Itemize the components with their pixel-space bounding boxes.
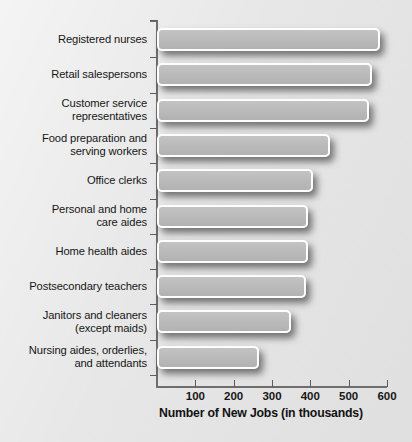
bar-row: Retail salespersons (0, 57, 412, 92)
bar-row: Registered nurses (0, 22, 412, 57)
category-label: Postsecondary teachers (4, 269, 147, 304)
bar-row: Home health aides (0, 234, 412, 269)
bar-row: Office clerks (0, 163, 412, 198)
x-axis-tick-label: 100 (175, 390, 215, 402)
x-axis-tick (195, 380, 196, 387)
category-label: Office clerks (4, 163, 147, 198)
category-label: Retail salespersons (4, 57, 147, 92)
bar[interactable] (157, 346, 259, 369)
bar[interactable] (157, 169, 313, 192)
x-axis-tick-label: 500 (329, 390, 369, 402)
category-label: Food preparation and serving workers (4, 128, 147, 163)
y-axis-tick (150, 20, 157, 21)
category-label: Personal and home care aides (4, 199, 147, 234)
category-label: Janitors and cleaners (except maids) (4, 304, 147, 339)
bar-row: Customer service representatives (0, 93, 412, 128)
bar[interactable] (157, 275, 306, 298)
category-label: Home health aides (4, 234, 147, 269)
bar-row: Janitors and cleaners (except maids) (0, 304, 412, 339)
bar[interactable] (157, 310, 291, 333)
bar[interactable] (157, 240, 308, 263)
x-axis-tick (387, 380, 388, 387)
category-label: Nursing aides, orderlies, and attendants (4, 340, 147, 375)
bar-row: Personal and home care aides (0, 199, 412, 234)
x-axis-tick-label: 600 (367, 390, 407, 402)
bar-row: Nursing aides, orderlies, and attendants (0, 340, 412, 375)
bar[interactable] (157, 134, 330, 157)
category-label: Customer service representatives (4, 93, 147, 128)
y-axis-tick (150, 375, 157, 376)
x-axis-tick-label: 400 (290, 390, 330, 402)
x-axis-title: Number of New Jobs (in thousands) (0, 406, 412, 420)
bar[interactable] (157, 99, 369, 122)
chart-container: Registered nursesRetail salespersonsCust… (0, 0, 412, 442)
x-axis-tick (272, 380, 273, 387)
x-axis-tick (310, 380, 311, 387)
bar-row: Food preparation and serving workers (0, 128, 412, 163)
bar[interactable] (157, 28, 380, 51)
x-axis-tick (234, 380, 235, 387)
x-axis-tick (349, 380, 350, 387)
bar[interactable] (157, 63, 372, 86)
x-axis-tick-label: 200 (214, 390, 254, 402)
bar-chart: Registered nursesRetail salespersonsCust… (0, 0, 412, 442)
category-label: Registered nurses (4, 22, 147, 57)
bar-row: Postsecondary teachers (0, 269, 412, 304)
bar[interactable] (157, 205, 308, 228)
x-axis-tick-label: 300 (252, 390, 292, 402)
